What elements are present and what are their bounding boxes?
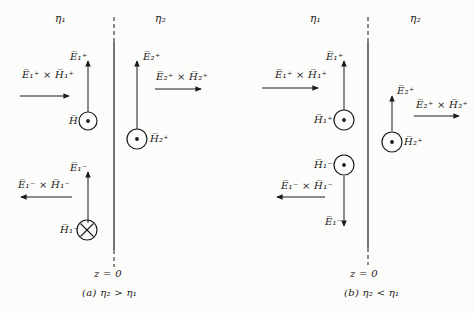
region-label-eta2: η₂ (155, 12, 166, 24)
h-out-of-page-dot (390, 140, 394, 144)
poynting-label-incident: E̅₁⁺ × H̅₁⁺ (275, 69, 327, 81)
panel-caption: (a) η₂ > η₁ (82, 287, 137, 299)
poynting-label-transmitted: E̅₂⁺ × H̅₂⁺ (416, 99, 468, 111)
e-field-label-reflected: E̅₁⁻ (70, 162, 88, 174)
e-field-label-transmitted: E̅₂⁺ (143, 51, 161, 63)
h-out-of-page-dot (342, 118, 346, 122)
poynting-label-incident: E̅₁⁺ × H̅₁⁺ (22, 69, 74, 81)
poynting-label-reflected: E̅₁⁻ × H̅₁⁻ (18, 179, 70, 191)
boundary-label: z = 0 (94, 268, 122, 280)
h-out-of-page-dot (86, 119, 90, 123)
h-field-label-transmitted: H̅₂⁺ (404, 136, 423, 148)
h-field-label-reflected: H̅₁⁻ (314, 159, 333, 171)
region-label-eta1: η₁ (55, 12, 66, 24)
region-label-eta2: η₂ (410, 12, 421, 24)
h-field-label-incident: H̅₁⁺ (314, 114, 333, 126)
e-field-label-incident: E̅₁⁺ (70, 51, 88, 63)
figure-graphics (0, 0, 474, 313)
h-out-of-page-dot (135, 137, 139, 141)
h-field-label-incident: H̅ (69, 115, 78, 127)
region-label-eta1: η₁ (310, 12, 321, 24)
h-out-of-page-dot (342, 163, 346, 167)
e-field-label-transmitted: E̅₂⁺ (397, 85, 415, 97)
e-field-label-incident: E̅₁⁺ (326, 51, 344, 63)
poynting-label-reflected: E̅₁⁻ × H̅₁⁻ (281, 180, 333, 192)
boundary-label: z = 0 (350, 268, 378, 280)
wave-reflection-figure: η₁ η₂ E̅₁⁺ E̅₁⁺ × H̅₁⁺ H̅ E̅₁⁻ E̅₁⁻ × H̅… (0, 0, 474, 313)
panel-caption: (b) η₂ < η₁ (344, 287, 399, 299)
poynting-label-transmitted: E̅₂⁺ × H̅₂⁺ (156, 71, 208, 83)
e-field-label-reflected: E̅₁⁻ (325, 216, 343, 228)
h-field-label-reflected: H̅₁⁻ (60, 224, 79, 236)
h-field-label-transmitted: H̅₂⁺ (150, 133, 169, 145)
